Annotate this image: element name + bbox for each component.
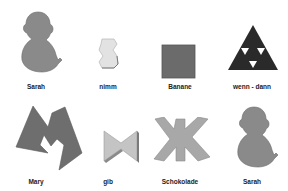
symbol-label: Schokolade bbox=[144, 178, 216, 185]
symbol-label: Sarah bbox=[0, 83, 72, 90]
gib-icon bbox=[102, 125, 142, 165]
symbol-sarah-2: Sarah bbox=[216, 95, 288, 190]
symbol-sarah: Sarah bbox=[0, 0, 72, 95]
sarah-icon bbox=[18, 10, 66, 75]
sarah-icon bbox=[234, 105, 282, 170]
symbol-wenn-dann: wenn - dann bbox=[216, 0, 288, 95]
nimm-icon bbox=[98, 38, 120, 70]
banane-icon bbox=[161, 44, 197, 80]
symbol-label: Banane bbox=[144, 83, 216, 90]
symbol-label: nimm bbox=[72, 83, 144, 90]
schokolade-icon bbox=[152, 117, 212, 165]
symbol-schokolade: Schokolade bbox=[144, 95, 216, 190]
symbol-nimm: nimm bbox=[72, 0, 144, 95]
wenn-dann-icon bbox=[227, 24, 279, 72]
symbol-mary: Mary bbox=[0, 95, 72, 190]
symbol-label: Sarah bbox=[216, 178, 288, 185]
symbol-label: Mary bbox=[0, 178, 72, 185]
symbol-banane: Banane bbox=[144, 0, 216, 95]
symbol-label: wenn - dann bbox=[216, 83, 288, 90]
symbol-label: gib bbox=[72, 178, 144, 185]
symbol-gib: gib bbox=[72, 95, 144, 190]
